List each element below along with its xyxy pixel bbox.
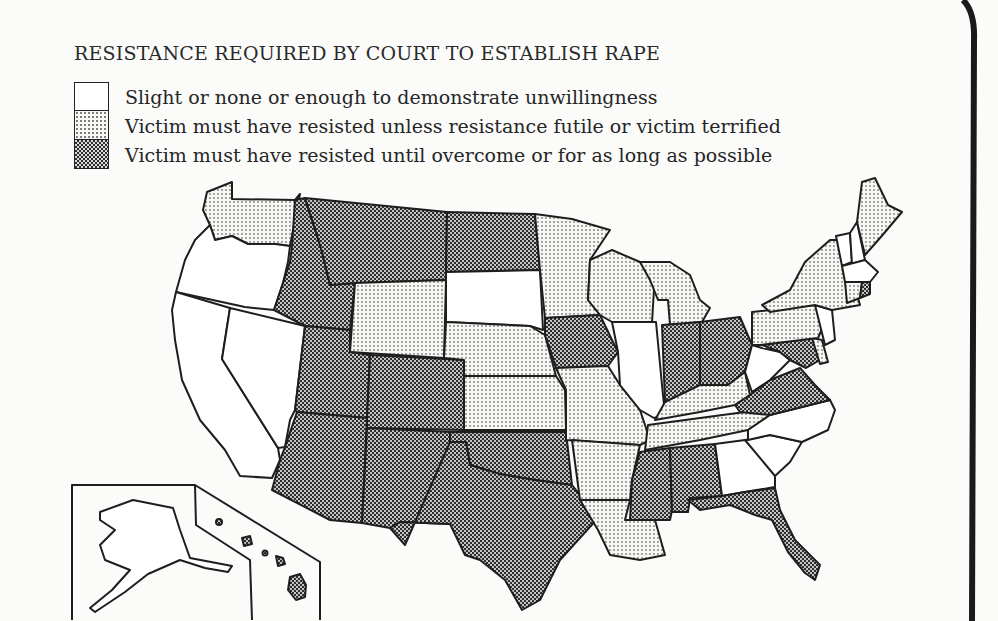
inset-divider [195, 485, 252, 620]
page-edge-border [938, 0, 998, 621]
us-map [0, 0, 998, 621]
state-CO [367, 355, 464, 430]
state-WY [350, 280, 446, 358]
state-ME [857, 178, 902, 255]
state-HI [216, 519, 306, 600]
state-WA [203, 182, 300, 246]
state-FL [688, 488, 820, 580]
state-SD [446, 270, 543, 330]
state-KS [464, 376, 566, 430]
state-MT [305, 198, 447, 285]
state-IA [545, 315, 618, 368]
state-AR [572, 440, 640, 500]
state-ND [446, 212, 540, 272]
state-RI [860, 282, 870, 298]
state-WI [588, 250, 655, 323]
state-AK [90, 500, 232, 612]
state-PA [752, 305, 825, 345]
